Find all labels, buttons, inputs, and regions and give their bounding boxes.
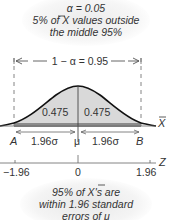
z-tick-pos: 1.96 (136, 166, 156, 178)
footer-line3: errors of μ (0, 210, 172, 220)
left-area-value: 0.475 (42, 106, 68, 118)
z-tick-neg: −1.96 (3, 166, 30, 178)
z-tick-zero: 0 (75, 166, 81, 178)
mu-label: μ (74, 135, 80, 147)
point-a-label: A (10, 135, 17, 147)
right-width-label: 1.96σ (92, 135, 119, 147)
left-width-label: 1.96σ (31, 135, 58, 147)
interval-label: 1 − α = 0.95 (50, 55, 110, 67)
point-b-label: B (136, 135, 143, 147)
xbar-axis-label: X (158, 117, 165, 129)
right-area-value: 0.475 (84, 106, 110, 118)
footer-line2: within 1.96 standard (0, 198, 172, 210)
footer-line1: 95% of X's are (0, 186, 172, 198)
z-axis-label: Z (159, 156, 166, 168)
